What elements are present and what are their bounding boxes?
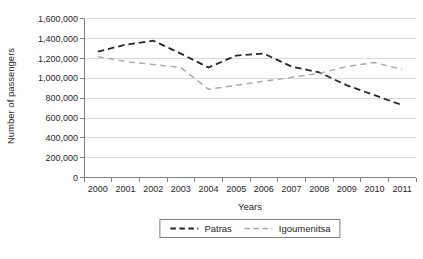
y-tick-label: 1,000,000 [38, 73, 78, 83]
x-tick-label: 2010 [364, 184, 384, 194]
x-axis-title: Years [238, 201, 262, 212]
x-tick-label: 2006 [254, 184, 274, 194]
y-tick-label: 1,600,000 [38, 14, 78, 24]
legend-label-igoumenitsa: Igoumenitsa [279, 223, 331, 234]
x-tick-label: 2004 [198, 184, 218, 194]
y-tick-label: 400,000 [45, 133, 78, 143]
legend-item-igoumenitsa: Igoumenitsa [244, 223, 331, 234]
series-line-igoumenitsa [98, 57, 402, 90]
legend-item-patras: Patras [169, 223, 231, 234]
y-tick-label: 1,400,000 [38, 34, 78, 44]
x-tick-label: 2001 [115, 184, 135, 194]
y-axis-title: Number of passengers [5, 48, 16, 144]
x-tick-label: 2007 [281, 184, 301, 194]
x-tick-label: 2002 [143, 184, 163, 194]
legend: Patras Igoumenitsa [159, 219, 340, 238]
y-tick-label: 1,200,000 [38, 54, 78, 64]
patras-dash-swatch-icon [169, 224, 199, 233]
x-tick-label: 2005 [226, 184, 246, 194]
x-tick-label: 2011 [392, 184, 411, 194]
x-tick-label: 2003 [171, 184, 191, 194]
y-tick-label: 0 [73, 173, 78, 183]
y-tick-label: 200,000 [45, 153, 78, 163]
series-line-patras [98, 41, 402, 105]
legend-label-patras: Patras [204, 223, 231, 234]
igoumenitsa-dash-swatch-icon [244, 224, 274, 233]
passengers-chart: 0200,000400,000600,000800,0001,000,0001,… [0, 0, 423, 259]
x-tick-label: 2009 [337, 184, 357, 194]
y-tick-label: 600,000 [45, 113, 78, 123]
x-tick-label: 2008 [309, 184, 329, 194]
x-tick-label: 2000 [88, 184, 108, 194]
y-tick-label: 800,000 [45, 93, 78, 103]
